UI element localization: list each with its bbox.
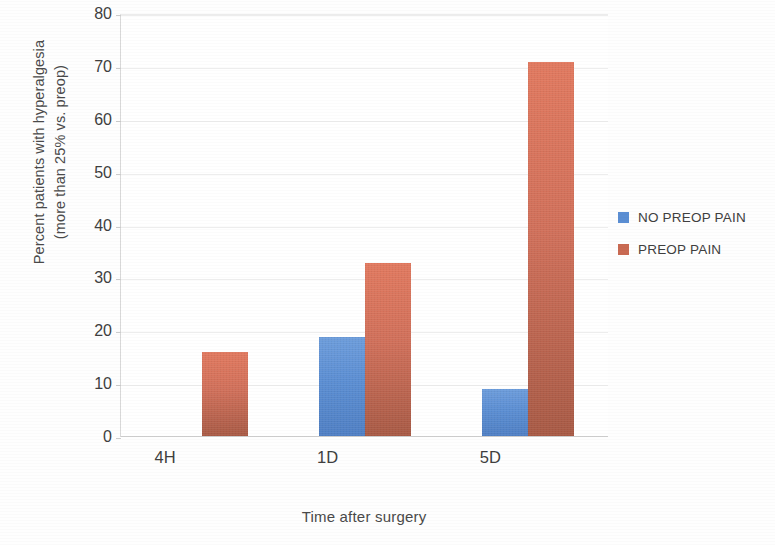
- y-axis-tick-label: 80: [40, 5, 112, 23]
- bar-group: [284, 15, 447, 437]
- y-axis-tick-mark: [116, 438, 121, 439]
- legend-label: PREOP PAIN: [638, 242, 721, 257]
- y-axis-tick-label: 0: [40, 428, 112, 446]
- legend-item: NO PREOP PAIN: [618, 209, 773, 225]
- bar-group: [446, 15, 609, 437]
- legend-label: NO PREOP PAIN: [638, 210, 746, 225]
- x-axis-tick-label: 4H: [120, 448, 210, 467]
- bar: [319, 337, 365, 437]
- bar: [365, 263, 411, 437]
- y-axis-tick-label: 50: [40, 164, 112, 182]
- x-axis-line: [121, 436, 608, 437]
- plot-area: [120, 14, 608, 437]
- chart-figure: Percent patients with hyperalgesia (more…: [0, 0, 775, 545]
- x-axis-title: Time after surgery: [120, 508, 608, 525]
- y-axis-tick-label: 20: [40, 322, 112, 340]
- x-axis-tick-labels: 4H1D5D: [120, 448, 608, 476]
- bar: [528, 62, 574, 437]
- x-axis-tick-label: 1D: [283, 448, 373, 467]
- bar-group: [121, 15, 284, 437]
- legend-item: PREOP PAIN: [618, 241, 773, 257]
- y-axis-tick-label: 60: [40, 111, 112, 129]
- bar: [482, 389, 528, 437]
- y-axis-tick-label: 70: [40, 58, 112, 76]
- y-axis-tick-label: 10: [40, 375, 112, 393]
- bar: [202, 352, 248, 437]
- y-axis-tick-label: 40: [40, 217, 112, 235]
- y-axis-tick-label: 30: [40, 269, 112, 287]
- legend-swatch-icon: [618, 212, 629, 223]
- legend-swatch-icon: [618, 244, 629, 255]
- x-axis-tick-label: 5D: [445, 448, 535, 467]
- y-axis-tick-labels: 01020304050607080: [34, 14, 112, 437]
- legend: NO PREOP PAINPREOP PAIN: [618, 209, 773, 273]
